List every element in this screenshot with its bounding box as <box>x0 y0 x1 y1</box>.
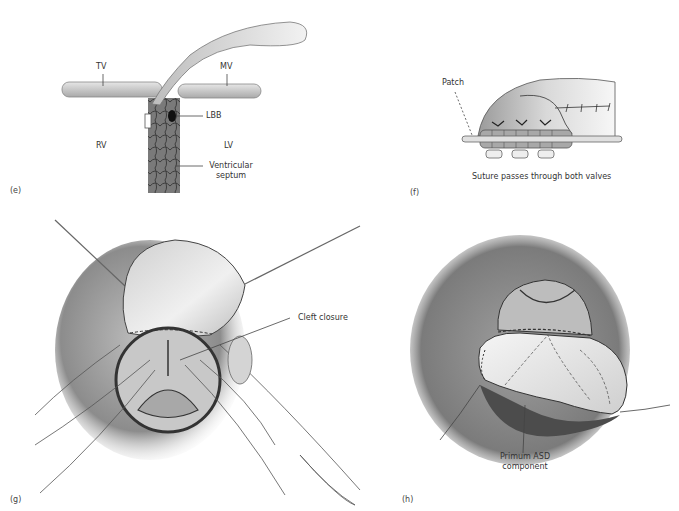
anterior-leaflet-flap <box>123 240 245 337</box>
valve-septum-illustration <box>0 0 340 200</box>
pledgets <box>486 150 554 158</box>
label-cleft-closure: Cleft closure <box>298 313 348 323</box>
label-lv: LV <box>224 141 233 151</box>
label-lbb: LBB <box>206 111 221 121</box>
panel-label-g: (g) <box>10 495 21 504</box>
label-patch: Patch <box>442 78 464 88</box>
label-mv: MV <box>220 62 232 72</box>
label-ventricular-septum: Ventricular septum <box>206 161 256 181</box>
ventricular-septum <box>148 98 180 193</box>
label-rv: RV <box>96 141 107 151</box>
panel-label-h: (h) <box>402 495 413 504</box>
patch-pointer <box>455 92 472 135</box>
caption-suture: Suture passes through both valves <box>472 172 611 182</box>
lbb-spot <box>168 110 176 122</box>
label-tv: TV <box>96 62 106 72</box>
tricuspid-valve-leaflet <box>62 82 162 97</box>
panel-label-f: (f) <box>410 188 419 197</box>
valve-leaflet-bar <box>462 136 622 142</box>
panel-e: TV MV LBB RV LV Ventricular septum (e) <box>0 0 340 200</box>
panel-g: Cleft closure (g) <box>0 200 370 511</box>
panel-h: Primum ASD component (h) <box>380 200 679 511</box>
panel-label-e: (e) <box>10 186 21 195</box>
cleft-closure-illustration <box>0 200 370 511</box>
label-primum-asd: Primum ASD component <box>490 452 560 472</box>
mitral-valve-leaflet <box>178 84 261 98</box>
panel-f: Patch Suture passes through both valves … <box>400 0 679 200</box>
patch-suture-illustration <box>400 0 679 200</box>
